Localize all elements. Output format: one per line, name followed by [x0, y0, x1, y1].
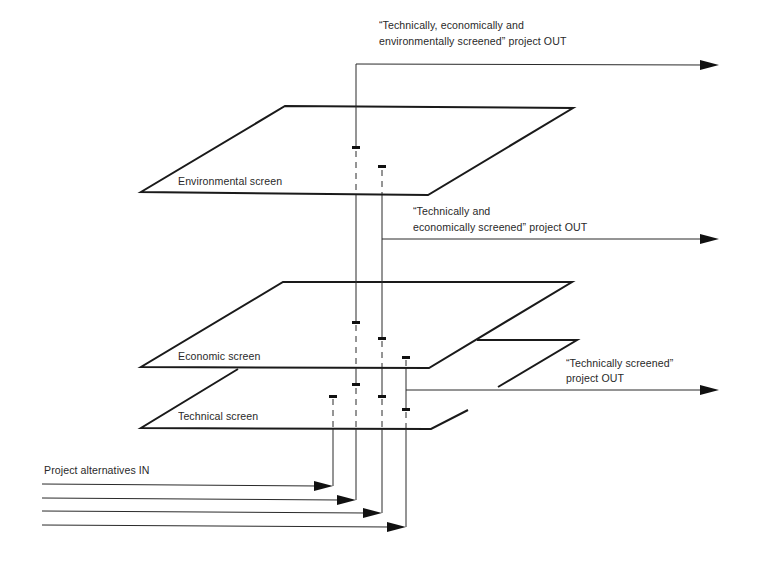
env-output-label-line1: “Technically, economically and: [379, 18, 524, 33]
econ-output-arrow: [382, 234, 719, 244]
econ-output-label-line2: economically screened” project OUT: [413, 220, 587, 235]
technical-screen-label: Technical screen: [178, 409, 258, 424]
input-arrows: [42, 481, 406, 532]
screening-diagram: [0, 0, 758, 566]
env-output-label-line2: environmentally screened” project OUT: [379, 34, 566, 49]
input-label: Project alternatives IN: [44, 463, 150, 478]
econ-output-label-line1: “Technically and: [413, 204, 490, 219]
environmental-screen-label: Environmental screen: [178, 174, 282, 189]
tech-output-label-line1: “Technically screened”: [566, 356, 673, 371]
economic-screen-label: Economic screen: [178, 349, 261, 364]
tech-output-label-line2: project OUT: [566, 371, 624, 386]
